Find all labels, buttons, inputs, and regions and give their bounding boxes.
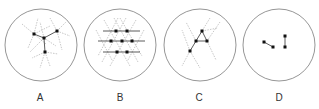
panel-b xyxy=(84,9,156,81)
dashed-line xyxy=(45,52,58,54)
node-dot xyxy=(284,35,287,38)
node-dot xyxy=(263,41,266,44)
node-dot xyxy=(33,33,36,36)
dashed-line xyxy=(190,51,200,68)
dashed-line xyxy=(40,22,44,38)
panel-label-d: D xyxy=(269,92,289,103)
dashed-line xyxy=(34,18,38,34)
dashed-line xyxy=(202,18,210,31)
panel-label-a: A xyxy=(30,92,50,103)
dashed-line xyxy=(182,51,190,66)
node-dot xyxy=(44,51,47,54)
dashed-line xyxy=(110,20,136,66)
dashed-line xyxy=(44,38,56,46)
dashed-line xyxy=(186,22,196,41)
node-dot xyxy=(121,40,124,43)
dashed-line xyxy=(207,22,220,41)
dashed-line xyxy=(114,18,138,62)
dashed-line xyxy=(50,18,57,31)
node-dot xyxy=(126,30,129,33)
panel-circle xyxy=(5,9,77,81)
dashed-line xyxy=(30,38,44,52)
node-dot xyxy=(284,46,287,49)
panel-c xyxy=(164,9,236,81)
panel-circle xyxy=(243,9,315,81)
node-dot xyxy=(206,40,209,43)
dashed-line xyxy=(207,41,216,60)
dashed-line xyxy=(28,34,34,48)
dashed-line xyxy=(104,20,130,66)
node-dot xyxy=(201,30,204,33)
node-dot xyxy=(131,40,134,43)
dashed-line xyxy=(202,28,218,31)
solid-line xyxy=(44,38,45,52)
dashed-line xyxy=(98,18,118,56)
node-dot xyxy=(272,46,275,49)
panel-circle xyxy=(84,9,156,81)
node-dot xyxy=(189,50,192,53)
node-dot xyxy=(110,40,113,43)
dashed-line xyxy=(45,52,50,66)
node-dot xyxy=(43,37,46,40)
dashed-line xyxy=(57,31,62,50)
dashed-line xyxy=(182,30,190,51)
node-dot xyxy=(195,40,198,43)
dashed-line xyxy=(120,18,142,56)
node-dot xyxy=(116,51,119,54)
dashed-line xyxy=(40,52,45,68)
panel-circle xyxy=(164,9,236,81)
panel-label-c: C xyxy=(189,92,209,103)
solid-line xyxy=(44,31,57,38)
node-dot xyxy=(126,51,129,54)
node-dot xyxy=(56,30,59,33)
panel-a xyxy=(5,9,77,81)
node-dot xyxy=(115,30,118,33)
panel-label-b: B xyxy=(110,92,130,103)
dashed-line xyxy=(57,31,70,36)
panel-d xyxy=(243,9,315,81)
